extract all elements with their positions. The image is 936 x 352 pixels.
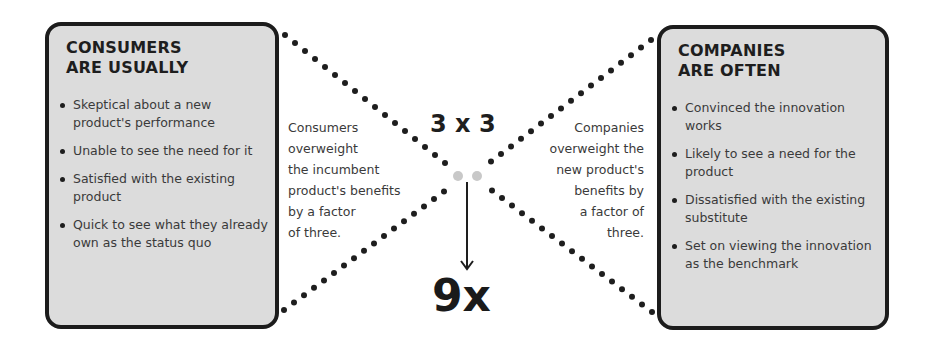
down-arrow-icon	[461, 182, 473, 269]
consumers-box: CONSUMERS ARE USUALLY Skeptical about a …	[45, 22, 279, 329]
caption-line: of three.	[288, 222, 401, 243]
list-item: Unable to see the need for it	[60, 142, 272, 160]
list-item: Satisfied with the existing product	[60, 170, 272, 206]
companies-caption: Companies overweight the new product's b…	[549, 117, 644, 243]
caption-line: three.	[549, 222, 644, 243]
consumers-box-title: CONSUMERS ARE USUALLY	[66, 38, 188, 78]
caption-line: product's benefits	[288, 180, 401, 201]
caption-line: by a factor	[288, 201, 401, 222]
list-item: Skeptical about a new product's performa…	[60, 96, 272, 132]
caption-line: Consumers	[288, 117, 401, 138]
companies-box-title: COMPANIES ARE OFTEN	[678, 41, 786, 81]
companies-list: Convinced the innovation works Likely to…	[672, 99, 884, 283]
caption-line: new product's	[549, 159, 644, 180]
caption-line: Companies	[549, 117, 644, 138]
title-line: CONSUMERS	[66, 38, 188, 58]
list-item: Convinced the innovation works	[672, 99, 884, 135]
faded-dot-right	[472, 171, 482, 181]
consumers-list: Skeptical about a new product's performa…	[60, 96, 272, 262]
caption-line: overweight	[288, 138, 401, 159]
title-line: ARE USUALLY	[66, 58, 188, 78]
title-line: ARE OFTEN	[678, 61, 786, 81]
caption-line: a factor of	[549, 201, 644, 222]
multiplication-label: 3 x 3	[430, 110, 496, 138]
faded-dot-left	[453, 171, 463, 181]
consumers-caption: Consumers overweight the incumbent produ…	[288, 117, 401, 243]
result-label: 9x	[432, 270, 491, 321]
list-item: Quick to see what they already own as th…	[60, 216, 272, 252]
caption-line: overweight the	[549, 138, 644, 159]
list-item: Dissatisfied with the existing substitut…	[672, 191, 884, 227]
list-item: Set on viewing the innovation as the ben…	[672, 237, 884, 273]
title-line: COMPANIES	[678, 41, 786, 61]
caption-line: benefits by	[549, 180, 644, 201]
caption-line: the incumbent	[288, 159, 401, 180]
companies-box: COMPANIES ARE OFTEN Convinced the innova…	[657, 25, 889, 330]
list-item: Likely to see a need for the product	[672, 145, 884, 181]
